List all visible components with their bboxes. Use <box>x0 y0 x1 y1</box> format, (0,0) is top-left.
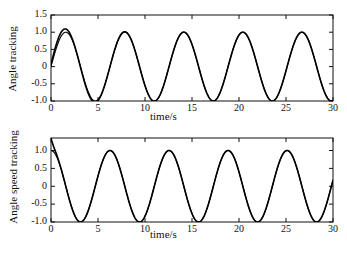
x-tick-label: 0 <box>49 102 54 113</box>
x-tick-label: 15 <box>187 102 197 113</box>
series-tracked <box>51 29 333 102</box>
x-tick-label: 0 <box>49 223 54 234</box>
axis-frame <box>51 138 333 222</box>
x-tick-label: 10 <box>140 102 150 113</box>
y-tick-label: 0.5 <box>35 43 48 54</box>
series-tracked <box>51 138 333 222</box>
y-tick-label: -0.5 <box>31 77 47 88</box>
x-tick-label: 5 <box>96 223 101 234</box>
figure-container: Angle tracking 051015202530-1.0-0.500.51… <box>0 0 347 264</box>
y-tick-label: 1.5 <box>35 8 48 19</box>
x-tick-label: 25 <box>281 223 291 234</box>
series-reference <box>51 151 333 222</box>
x-tick-label: 30 <box>328 223 338 234</box>
y-tick-label: 0 <box>42 180 47 191</box>
y-tick-label: 0 <box>42 60 47 71</box>
x-axis-label-angle-tracking: time/s <box>150 110 177 122</box>
x-tick-label: 30 <box>328 102 338 113</box>
chart-panel-angle-tracking: Angle tracking 051015202530-1.0-0.500.51… <box>0 0 347 132</box>
plot-area-angle-speed-tracking: 051015202530-1.0-0.500.51.0 <box>0 125 347 264</box>
x-tick-label: 10 <box>140 223 150 234</box>
y-tick-label: -0.5 <box>31 197 47 208</box>
x-tick-label: 5 <box>96 102 101 113</box>
x-tick-label: 20 <box>234 223 244 234</box>
y-tick-label: -1.0 <box>31 215 47 226</box>
y-tick-label: 0.5 <box>35 162 48 173</box>
x-axis-label-angle-speed-tracking: time/s <box>150 228 177 240</box>
x-tick-label: 25 <box>281 102 291 113</box>
axis-frame <box>51 15 333 101</box>
y-tick-label: 1.0 <box>35 25 48 36</box>
x-tick-label: 20 <box>234 102 244 113</box>
x-tick-label: 15 <box>187 223 197 234</box>
chart-panel-angle-speed-tracking: Angle speed tracking 051015202530-1.0-0.… <box>0 125 347 264</box>
y-tick-label: 1.0 <box>35 144 48 155</box>
y-tick-label: -1.0 <box>31 94 47 105</box>
